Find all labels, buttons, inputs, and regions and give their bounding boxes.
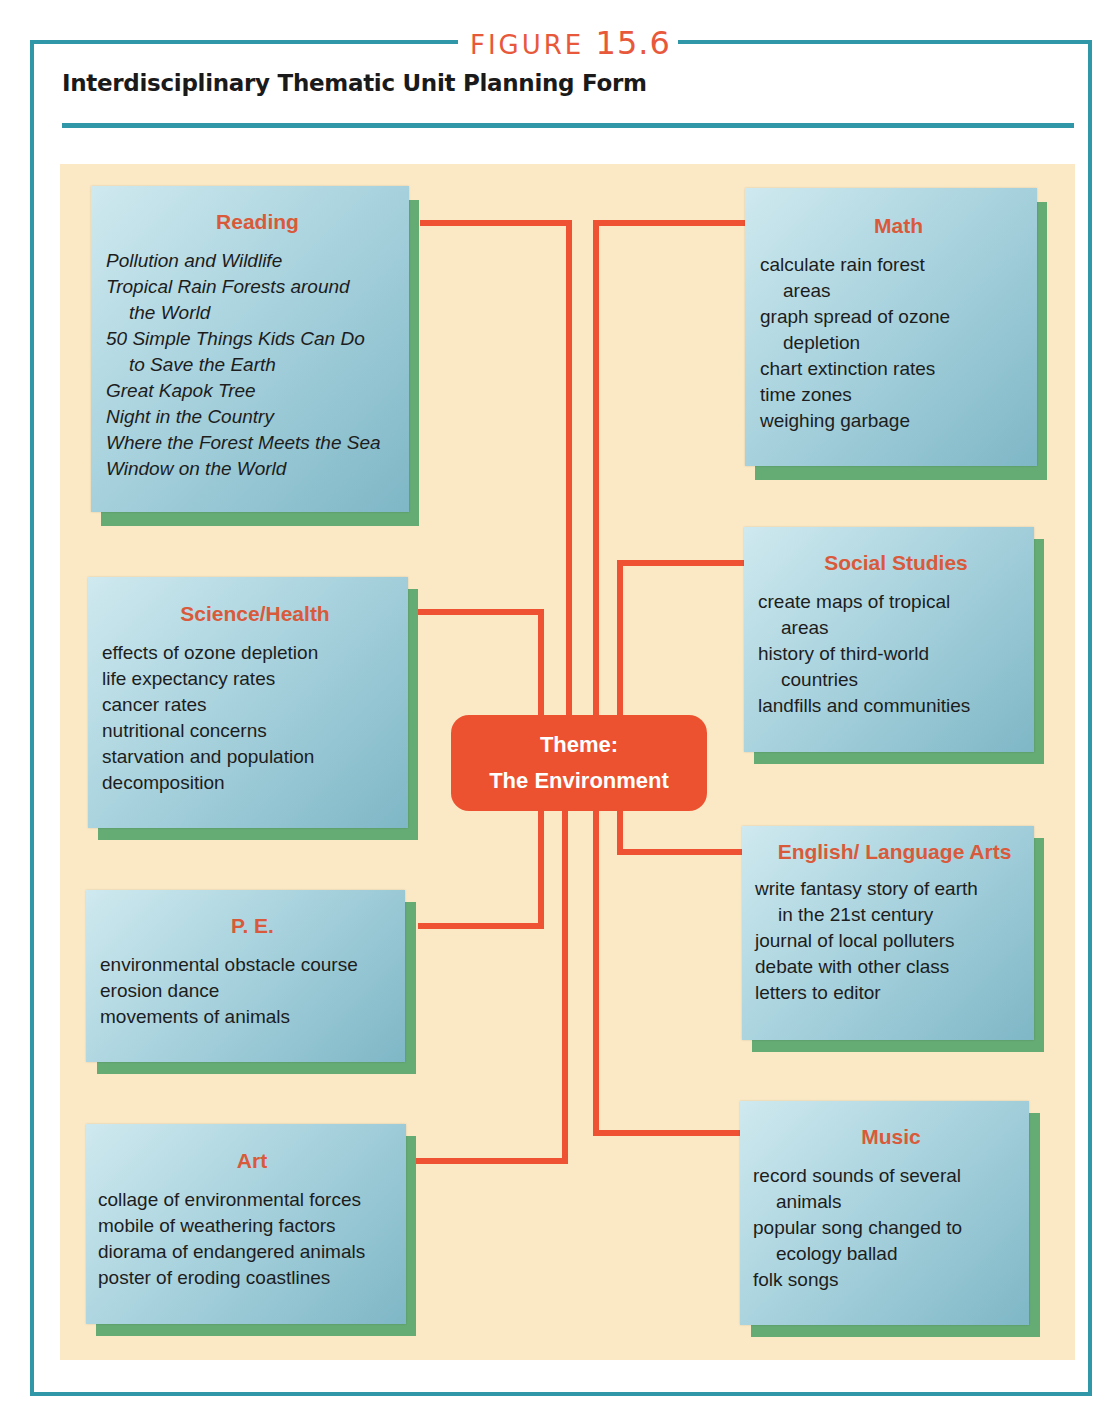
list-item: weighing garbage: [760, 408, 1037, 434]
list-item: history of third-worldcountries: [758, 641, 1034, 693]
list-item: write fantasy story of earthin the 21st …: [755, 876, 1034, 928]
list-item: diorama of endangered animals: [98, 1239, 406, 1265]
subject-box-art: Art collage of environmental forces mobi…: [86, 1124, 416, 1336]
list-item: graph spread of ozonedepletion: [760, 304, 1037, 356]
subject-heading: Science/Health: [102, 602, 408, 626]
subject-items: create maps of tropicalareas history of …: [758, 589, 1034, 719]
list-item: chart extinction rates: [760, 356, 1037, 382]
list-item: erosion dance: [100, 978, 405, 1004]
subject-heading: Social Studies: [758, 551, 1034, 575]
connector-english-h: [617, 849, 748, 855]
frame-top-rule-right: [678, 40, 1092, 44]
figure-label-word: FIGURE: [470, 30, 584, 60]
box-card: English/ Language Arts write fantasy sto…: [742, 826, 1034, 1040]
box-card: P. E. environmental obstacle course eros…: [86, 890, 405, 1062]
list-item: record sounds of severalanimals: [753, 1163, 1029, 1215]
list-item: journal of local polluters: [755, 928, 1034, 954]
list-item: Where the Forest Meets the Sea: [106, 430, 409, 456]
theme-title: The Environment: [451, 763, 707, 799]
list-item: Pollution and Wildlife: [106, 248, 409, 274]
subject-heading: P. E.: [100, 914, 405, 938]
connector-reading-v: [566, 220, 572, 718]
box-card: Art collage of environmental forces mobi…: [86, 1124, 406, 1324]
box-card: Math calculate rain forestareas graph sp…: [745, 188, 1037, 466]
list-item: cancer rates: [102, 692, 408, 718]
page-title: Interdisciplinary Thematic Unit Planning…: [62, 70, 647, 96]
subject-items: Pollution and Wildlife Tropical Rain For…: [106, 248, 409, 482]
theme-label: Theme:: [451, 727, 707, 763]
subject-box-english-language-arts: English/ Language Arts write fantasy sto…: [742, 826, 1044, 1052]
connector-social-v: [617, 560, 623, 718]
subject-heading: Math: [760, 214, 1037, 238]
list-item: debate with other class: [755, 954, 1034, 980]
list-item: popular song changed toecology ballad: [753, 1215, 1029, 1267]
list-item: effects of ozone depletion: [102, 640, 408, 666]
list-item: folk songs: [753, 1267, 1029, 1293]
subject-items: write fantasy story of earthin the 21st …: [755, 876, 1034, 1006]
figure-label: FIGURE 15.6: [470, 24, 671, 62]
connector-pe-v: [538, 808, 544, 929]
frame-top-rule-left: [30, 40, 458, 44]
list-item: collage of environmental forces: [98, 1187, 406, 1213]
list-item: Window on the World: [106, 456, 409, 482]
list-item: Great Kapok Tree: [106, 378, 409, 404]
list-item: nutritional concerns: [102, 718, 408, 744]
subject-heading: Art: [98, 1149, 406, 1173]
list-item: environmental obstacle course: [100, 952, 405, 978]
box-card: Music record sounds of severalanimals po…: [740, 1101, 1029, 1325]
subject-heading: Reading: [106, 210, 409, 234]
list-item: Night in the Country: [106, 404, 409, 430]
subject-box-social-studies: Social Studies create maps of tropicalar…: [744, 527, 1044, 764]
connector-pe-h: [418, 923, 544, 929]
connector-english-v: [617, 808, 623, 854]
subject-items: calculate rain forestareas graph spread …: [760, 252, 1037, 434]
list-item: landfills and communities: [758, 693, 1034, 719]
subject-heading: English/ Language Arts: [755, 840, 1034, 864]
subject-box-math: Math calculate rain forestareas graph sp…: [745, 188, 1047, 480]
connector-math-music-v: [593, 220, 599, 1136]
list-item: create maps of tropicalareas: [758, 589, 1034, 641]
figure-number: 15.6: [596, 24, 671, 62]
subject-items: collage of environmental forces mobile o…: [98, 1187, 406, 1291]
box-card: Social Studies create maps of tropicalar…: [744, 527, 1034, 752]
list-item: poster of eroding coastlines: [98, 1265, 406, 1291]
connector-science-h: [418, 609, 544, 615]
subject-items: effects of ozone depletion life expectan…: [102, 640, 408, 796]
connector-art-v: [562, 808, 568, 1164]
list-item: time zones: [760, 382, 1037, 408]
list-item: Tropical Rain Forests aroundthe World: [106, 274, 409, 326]
subject-heading: Music: [753, 1125, 1029, 1149]
list-item: starvation and population: [102, 744, 408, 770]
connector-math-h: [593, 220, 748, 226]
list-item: calculate rain forestareas: [760, 252, 1037, 304]
box-card: Reading Pollution and Wildlife Tropical …: [91, 186, 409, 512]
connector-art-h: [416, 1158, 568, 1164]
list-item: movements of animals: [100, 1004, 405, 1030]
list-item: decomposition: [102, 770, 408, 796]
box-card: Science/Health effects of ozone depletio…: [88, 577, 408, 828]
subject-box-science-health: Science/Health effects of ozone depletio…: [88, 577, 418, 840]
subject-items: record sounds of severalanimals popular …: [753, 1163, 1029, 1293]
subject-box-pe: P. E. environmental obstacle course eros…: [86, 890, 416, 1074]
list-item: letters to editor: [755, 980, 1034, 1006]
connector-music-h: [593, 1130, 743, 1136]
connector-science-v: [538, 609, 544, 718]
connector-social-h: [617, 560, 748, 566]
list-item: mobile of weathering factors: [98, 1213, 406, 1239]
subject-items: environmental obstacle course erosion da…: [100, 952, 405, 1030]
connector-reading-h: [420, 220, 572, 226]
title-rule: [62, 123, 1074, 128]
subject-box-reading: Reading Pollution and Wildlife Tropical …: [91, 186, 419, 526]
subject-box-music: Music record sounds of severalanimals po…: [740, 1101, 1040, 1337]
list-item: 50 Simple Things Kids Can Doto Save the …: [106, 326, 409, 378]
list-item: life expectancy rates: [102, 666, 408, 692]
theme-node: Theme: The Environment: [451, 715, 707, 811]
